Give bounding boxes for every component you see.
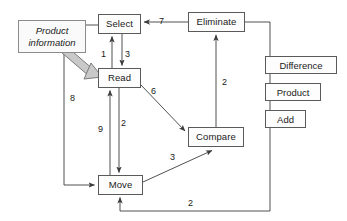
node-read-label: Read — [108, 73, 131, 84]
edge-label-read-to-compare: 6 — [151, 87, 156, 96]
node-read[interactable]: Read — [98, 68, 141, 88]
note-product-information: Product information — [18, 20, 86, 53]
edge-label-select-to-move: 8 — [70, 94, 75, 103]
connector-read-to-compare — [141, 85, 185, 131]
legend-item-difference-label: Difference — [279, 60, 322, 71]
edge-label-move-to-compare: 3 — [170, 153, 175, 162]
edge-label-compare-to-eliminate: 2 — [222, 78, 227, 87]
note-line-2: information — [29, 37, 76, 49]
edge-label-eliminate-to-select: 7 — [159, 17, 164, 26]
edge-label-select-to-read: 3 — [125, 50, 130, 59]
edge-label-read-to-move: 2 — [121, 119, 126, 128]
edge-label-eliminate-to-move: 2 — [188, 199, 193, 208]
legend-item-add-label: Add — [277, 114, 294, 125]
node-eliminate-label: Eliminate — [197, 17, 237, 28]
legend-item-add[interactable]: Add — [265, 110, 306, 128]
legend-item-product[interactable]: Product — [265, 83, 321, 101]
node-select[interactable]: Select — [98, 14, 141, 34]
legend-item-difference[interactable]: Difference — [265, 56, 337, 74]
node-compare-label: Compare — [196, 132, 236, 143]
edge-label-move-to-read: 9 — [98, 125, 103, 134]
node-select-label: Select — [106, 19, 133, 30]
node-eliminate[interactable]: Eliminate — [188, 12, 245, 32]
note-line-1: Product — [29, 25, 76, 37]
legend-item-product-label: Product — [277, 87, 310, 98]
connector-move-to-compare — [143, 151, 212, 183]
edge-label-read-to-select: 1 — [101, 50, 106, 59]
node-compare[interactable]: Compare — [188, 127, 244, 147]
node-move[interactable]: Move — [98, 175, 143, 195]
diagram-canvas: Select Read Eliminate Compare Move Produ… — [0, 0, 347, 221]
node-move-label: Move — [109, 180, 133, 191]
